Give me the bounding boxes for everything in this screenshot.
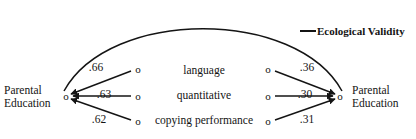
construct-right-line1: Parental <box>352 84 390 96</box>
construct-left-line2: Education <box>4 97 51 110</box>
indicator-label-quantitative: quantitative <box>177 89 231 102</box>
path-diagram-figure: o o o o o o o o Parental Education Paren… <box>0 0 416 139</box>
node-parental-education-right: o <box>337 91 343 102</box>
coefficient-left-quantitative: .63 <box>97 88 111 101</box>
node-quantitative-right: o <box>265 91 271 102</box>
coefficient-left-copying: .62 <box>92 113 106 126</box>
node-copying-left: o <box>135 116 141 127</box>
construct-label-left: Parental Education <box>4 84 51 110</box>
node-copying-right: o <box>265 116 271 127</box>
node-quantitative-left: o <box>135 91 141 102</box>
coefficient-left-language: .66 <box>89 61 103 74</box>
node-language-left: o <box>135 64 141 75</box>
construct-label-right: Parental Education <box>352 84 399 110</box>
node-language-right: o <box>265 64 271 75</box>
coefficient-right-quantitative: .30 <box>298 88 312 101</box>
edge-ecological-validity-arc <box>64 29 342 91</box>
construct-right-line2: Education <box>352 97 399 110</box>
coefficient-right-language: .36 <box>300 61 314 74</box>
node-parental-education-left: o <box>63 91 69 102</box>
coefficient-right-copying: .31 <box>300 113 314 126</box>
arc-label-ecological-validity: Ecological Validity <box>317 25 405 37</box>
indicator-label-copying: copying performance <box>155 114 253 127</box>
construct-left-line1: Parental <box>4 84 42 96</box>
indicator-label-language: language <box>183 64 225 77</box>
